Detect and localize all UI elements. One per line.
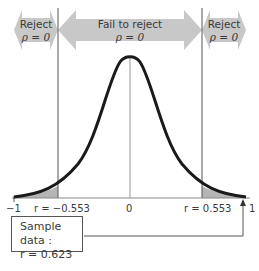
tick-label-one: 1 [249,203,255,214]
reject-right-label: Reject ρ = 0 [202,18,246,44]
region-hypothesis: ρ = 0 [14,31,58,44]
region-hypothesis: ρ = 0 [58,31,202,44]
sample-pointer-arrowhead [240,199,246,206]
region-label: Reject [202,18,246,31]
region-label: Reject [14,18,58,31]
tick-label-zero: 0 [126,203,132,214]
region-label: Fail to reject [58,18,202,31]
region-hypothesis: ρ = 0 [202,31,246,44]
tick-label-pos-critical: r = 0.553 [184,203,231,214]
fail-to-reject-label: Fail to reject ρ = 0 [58,18,202,44]
tick-label-neg-critical: r = −0.553 [34,203,90,214]
sample-box-title: Sample data : [20,220,82,248]
reject-left-label: Reject ρ = 0 [14,18,58,44]
sample-data-box: Sample data : r = 0.623 [11,216,83,252]
sample-box-value: r = 0.623 [20,248,82,262]
tick-label-minus-one: −1 [6,203,21,214]
